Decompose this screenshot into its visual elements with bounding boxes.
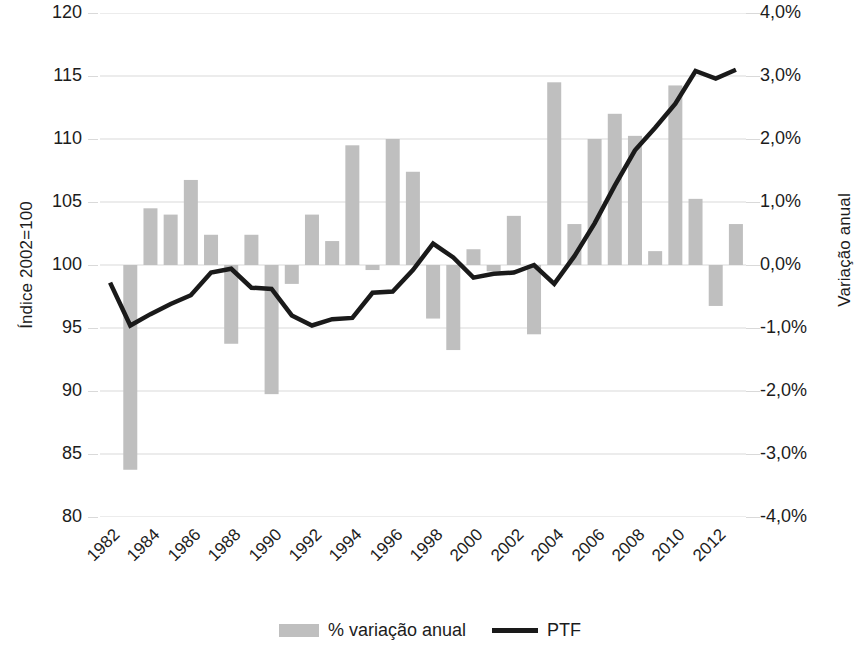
y-axis-right-tick-label: -2,0% <box>760 381 830 399</box>
x-axis-labels: 1982198419861988199019921994199619982000… <box>100 519 746 609</box>
bar <box>729 224 743 265</box>
bar <box>244 235 258 265</box>
plot-area <box>100 13 746 517</box>
y-axis-left-tick-label: 105 <box>36 192 82 210</box>
legend-item-line: PTF <box>492 620 581 641</box>
y-axis-right-ticks: 4,0%3,0%2,0%1,0%0,0%-1,0%-2,0%-3,0%-4,0% <box>760 0 840 530</box>
bar <box>184 180 198 265</box>
bar <box>164 215 178 265</box>
legend-label-line: PTF <box>547 620 581 641</box>
bar <box>426 265 440 319</box>
y-axis-right-tick-mark <box>746 454 760 455</box>
y-axis-left-tick-label: 90 <box>36 381 82 399</box>
bar <box>588 139 602 265</box>
bar <box>224 265 238 344</box>
y-axis-left-tick-mark <box>88 76 98 77</box>
y-axis-left-tick-label: 95 <box>36 318 82 336</box>
bar <box>143 208 157 265</box>
y-axis-left-tick-label: 100 <box>36 255 82 273</box>
chart-legend: % variação anual PTF <box>0 620 860 641</box>
y-axis-left-tick-mark <box>88 391 98 392</box>
bar <box>507 216 521 265</box>
ptf-line <box>110 70 736 326</box>
bar <box>487 265 501 271</box>
line-series <box>110 70 736 326</box>
y-axis-right-tick-label: 3,0% <box>760 66 830 84</box>
bar <box>386 139 400 265</box>
y-axis-left-tick-mark <box>88 454 98 455</box>
y-axis-right-tick-label: -3,0% <box>760 444 830 462</box>
y-axis-left-tick-label: 85 <box>36 444 82 462</box>
bar-swatch-icon <box>279 624 319 637</box>
bar <box>446 265 460 350</box>
bar <box>345 145 359 265</box>
bar <box>123 265 137 470</box>
bar <box>305 215 319 265</box>
y-axis-right-tick-mark <box>746 265 760 266</box>
bar <box>547 82 561 265</box>
y-axis-right-tick-mark <box>746 391 760 392</box>
legend-label-bar: % variação anual <box>328 620 466 641</box>
bar <box>527 265 541 334</box>
y-axis-right-tick-mark <box>746 328 760 329</box>
bar <box>366 265 380 270</box>
chart-container: Índice 2002=100 Variação anual 120115110… <box>0 0 860 662</box>
bar <box>265 265 279 394</box>
bar <box>466 249 480 265</box>
y-axis-left-tick-mark <box>88 328 98 329</box>
bar <box>204 235 218 265</box>
y-axis-left-title: Índice 2002=100 <box>17 155 37 375</box>
y-axis-left-tick-mark <box>88 265 98 266</box>
y-axis-right-tick-label: -1,0% <box>760 318 830 336</box>
y-axis-left-tick-label: 80 <box>36 507 82 525</box>
y-axis-left-tick-label: 120 <box>36 3 82 21</box>
y-axis-left-tick-mark <box>88 13 98 14</box>
bar <box>406 172 420 265</box>
bar-series <box>123 82 743 469</box>
y-axis-right-tick-label: 2,0% <box>760 129 830 147</box>
y-axis-right-tick-mark <box>746 76 760 77</box>
bar <box>689 199 703 265</box>
y-axis-right-tick-label: 0,0% <box>760 255 830 273</box>
bar <box>285 265 299 284</box>
bar <box>709 265 723 306</box>
y-axis-left-tick-label: 115 <box>36 66 82 84</box>
y-axis-right-tick-mark <box>746 517 760 518</box>
y-axis-right-tick-mark <box>746 13 760 14</box>
y-axis-left-tick-mark <box>88 202 98 203</box>
y-axis-left-tick-mark <box>88 517 98 518</box>
y-axis-right-tick-mark <box>746 139 760 140</box>
bar <box>325 241 339 265</box>
y-axis-right-tick-mark <box>746 202 760 203</box>
y-axis-left-tick-label: 110 <box>36 129 82 147</box>
y-axis-left-ticks: 12011511010510095908580 <box>36 0 82 530</box>
line-swatch-icon <box>492 628 538 633</box>
plot-svg <box>100 13 746 517</box>
y-axis-right-tick-label: 1,0% <box>760 192 830 210</box>
y-axis-right-tick-label: 4,0% <box>760 3 830 21</box>
legend-item-bar: % variação anual <box>279 620 466 641</box>
bar <box>648 251 662 265</box>
y-axis-right-tick-label: -4,0% <box>760 507 830 525</box>
y-axis-left-tick-mark <box>88 139 98 140</box>
